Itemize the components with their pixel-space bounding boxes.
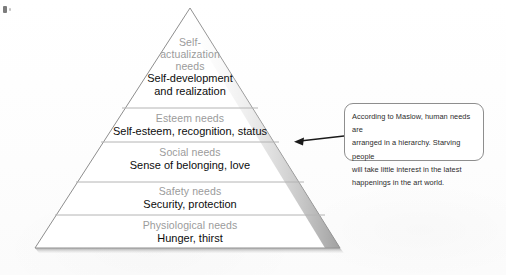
tier-self-actualization-heading: Self- actualization needs xyxy=(113,37,267,72)
pyramid-base-shadow xyxy=(35,248,344,253)
tier-physiological-heading: Physiological needs xyxy=(30,220,350,232)
tier-safety-description: Security, protection xyxy=(40,198,340,210)
tier-esteem-heading: Esteem needs xyxy=(40,113,340,125)
tier-physiological-description: Hunger, thirst xyxy=(30,232,350,244)
tier-self-actualization: Self- actualization needs Self-developme… xyxy=(113,37,267,97)
tier-self-actualization-description: Self-development and realization xyxy=(113,72,267,97)
callout-text: According to Maslow, human needs are arr… xyxy=(352,110,477,189)
tier-safety: Safety needs Security, protection xyxy=(40,186,340,210)
tier-physiological: Physiological needs Hunger, thirst xyxy=(30,220,350,244)
callout-arrow-icon xyxy=(285,128,347,154)
callout-box: According to Maslow, human needs are arr… xyxy=(344,103,484,161)
tier-safety-heading: Safety needs xyxy=(40,186,340,198)
tier-social-description: Sense of belonging, love xyxy=(40,159,340,171)
